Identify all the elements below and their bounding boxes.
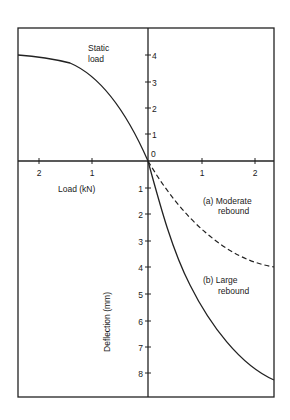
y-tick-lower-8: 8 (138, 369, 143, 379)
y-tick-lower-5: 5 (138, 290, 143, 300)
y-tick-upper-3: 3 (152, 78, 157, 88)
x-tick-label-left-2: 2 (37, 168, 42, 178)
y-tick-lower-6: 6 (138, 317, 143, 327)
y-tick-lower-4: 4 (138, 263, 143, 273)
y-tick-lower-3: 3 (138, 237, 143, 247)
y-tick-lower-7: 7 (138, 343, 143, 353)
deflection-load-chart: 2 1 1 2 4 3 2 1 0 1 2 3 4 5 6 7 8 Static… (0, 0, 290, 420)
y-tick-lower-1: 1 (138, 184, 143, 194)
large-rebound-label-line2: rebound (218, 286, 249, 296)
origin-label: 0 (151, 149, 156, 159)
deflection-axis-label: Deflection (mm) (102, 292, 112, 352)
static-load-label-line1: Static (88, 43, 110, 53)
y-tick-upper-2: 2 (152, 104, 157, 114)
y-tick-upper-1: 1 (152, 130, 157, 140)
large-rebound-curve (148, 161, 274, 380)
static-load-label-line2: load (88, 54, 104, 64)
x-tick-label-left-1: 1 (90, 168, 95, 178)
large-rebound-label-line1: (b) Large (203, 275, 238, 285)
y-tick-upper-4: 4 (152, 51, 157, 61)
x-tick-label-right-1: 1 (200, 168, 205, 178)
load-axis-label: Load (kN) (58, 184, 95, 194)
moderate-rebound-label-line2: rebound (218, 206, 249, 216)
static-load-curve (18, 55, 148, 161)
y-tick-lower-2: 2 (138, 210, 143, 220)
x-tick-label-right-2: 2 (253, 168, 258, 178)
moderate-rebound-label-line1: (a) Moderate (203, 196, 252, 206)
